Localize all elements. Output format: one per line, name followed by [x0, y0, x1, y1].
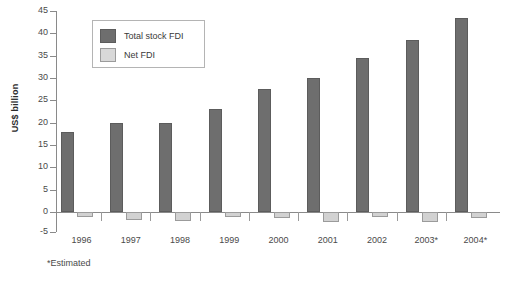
bar-total-stock-fdi [406, 40, 419, 212]
category-separator [150, 212, 151, 221]
bar-net-fdi [126, 212, 142, 220]
legend-label-total-stock-fdi: Total stock FDI [124, 31, 184, 41]
y-axis-tick [50, 232, 56, 233]
y-axis-tick-label: 5 [18, 185, 48, 194]
bar-total-stock-fdi [455, 18, 468, 212]
y-axis-tick [50, 33, 56, 34]
x-axis-label: 2004* [445, 236, 505, 245]
y-axis-tick-label: 35 [18, 51, 48, 60]
legend-swatch-total-stock-fdi [100, 29, 116, 43]
y-axis-tick [50, 145, 56, 146]
y-axis-tick-label: 20 [18, 118, 48, 127]
y-axis-tick [50, 100, 56, 101]
fdi-bar-chart: US$ billion -5051015202530354045 1996199… [0, 0, 507, 281]
y-axis-tick [50, 123, 56, 124]
y-axis-tick-label: 45 [18, 6, 48, 15]
legend-item-total-stock-fdi: Total stock FDI [100, 27, 197, 44]
legend-item-net-fdi: Net FDI [100, 46, 197, 63]
bar-net-fdi [274, 212, 290, 218]
y-axis-tick-label: 0 [18, 207, 48, 216]
chart-legend: Total stock FDI Net FDI [92, 20, 205, 68]
y-axis-tick-label: 30 [18, 73, 48, 82]
category-separator [446, 212, 447, 221]
y-axis-tick [50, 11, 56, 12]
y-axis-tick [50, 167, 56, 168]
y-axis-tick-label: 25 [18, 95, 48, 104]
bar-total-stock-fdi [159, 123, 172, 212]
bar-total-stock-fdi [209, 109, 222, 212]
y-axis-tick [50, 56, 56, 57]
y-axis-line [56, 11, 57, 232]
category-separator [200, 212, 201, 221]
bar-net-fdi [422, 212, 438, 222]
y-axis-tick-label: 15 [18, 140, 48, 149]
bar-total-stock-fdi [258, 89, 271, 212]
bar-total-stock-fdi [110, 123, 123, 212]
bar-net-fdi [323, 212, 339, 222]
y-axis-tick-label: 40 [18, 28, 48, 37]
y-axis-tick [50, 78, 56, 79]
category-separator [397, 212, 398, 221]
category-separator [101, 212, 102, 221]
y-axis-tick-label: 10 [18, 162, 48, 171]
legend-label-net-fdi: Net FDI [124, 50, 155, 60]
footnote: *Estimated [47, 258, 91, 268]
bar-net-fdi [77, 212, 93, 217]
bar-total-stock-fdi [356, 58, 369, 212]
bar-net-fdi [471, 212, 487, 218]
y-axis-tick [50, 190, 56, 191]
legend-swatch-net-fdi [100, 48, 116, 62]
bar-net-fdi [372, 212, 388, 217]
bar-net-fdi [225, 212, 241, 217]
bar-net-fdi [175, 212, 191, 221]
category-separator [298, 212, 299, 221]
y-axis-tick-label: -5 [18, 227, 48, 236]
bar-total-stock-fdi [61, 132, 74, 212]
category-separator [347, 212, 348, 221]
bar-total-stock-fdi [307, 78, 320, 212]
category-separator [249, 212, 250, 221]
y-axis-tick [50, 212, 56, 213]
